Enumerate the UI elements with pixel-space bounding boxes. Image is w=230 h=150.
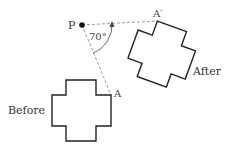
rotation-diagram: P 70° A A′ Before After: [0, 0, 230, 150]
before-shape: [52, 80, 111, 141]
label-a-prime: A′: [152, 8, 163, 19]
label-after: After: [192, 65, 222, 78]
ray-p-to-a-prime: [82, 21, 157, 25]
center-point-p: [79, 22, 85, 28]
label-p: P: [68, 19, 76, 32]
arc-arrowhead-icon: [110, 21, 115, 27]
label-a: A: [113, 88, 122, 99]
after-shape: [123, 16, 201, 92]
label-angle: 70°: [89, 31, 107, 42]
label-before: Before: [8, 104, 45, 117]
